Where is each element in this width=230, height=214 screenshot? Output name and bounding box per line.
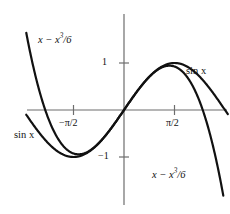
taylor-approximation-figure: −π/2 π/2 1 −1 x − x3/6 x − x3/6 sin x si… <box>0 0 230 214</box>
curve-group <box>26 33 228 196</box>
taylor-label-base: x − x <box>38 34 60 45</box>
y-tick-label-one: 1 <box>102 57 107 67</box>
y-tick-label-neg-one: −1 <box>98 151 109 161</box>
taylor-label-top-left: x − x3/6 <box>38 33 71 45</box>
x-tick-label-neg-half-pi: −π/2 <box>59 118 77 128</box>
taylor-label-suffix: /6 <box>63 34 71 45</box>
taylor-label-bottom-right: x − x3/6 <box>152 168 185 180</box>
plot-canvas <box>0 0 230 214</box>
taylor-label-base: x − x <box>152 169 174 180</box>
x-tick-label-pos-half-pi: π/2 <box>166 118 179 128</box>
taylor-curve <box>26 33 223 196</box>
taylor-label-suffix: /6 <box>177 169 185 180</box>
sine-label-left: sin x <box>14 130 34 141</box>
sine-label-right: sin x <box>186 66 206 77</box>
